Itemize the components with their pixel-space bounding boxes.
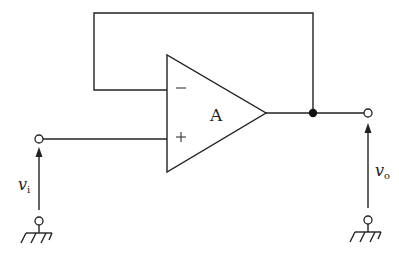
output-ground-icon bbox=[350, 216, 381, 242]
output-junction-dot bbox=[309, 109, 317, 117]
output-voltage-arrow bbox=[365, 123, 372, 208]
plus-sign bbox=[176, 132, 186, 142]
feedback-wire bbox=[94, 13, 313, 113]
output-voltage-label: vo bbox=[375, 161, 390, 181]
voltage-follower-circuit: A vi vo bbox=[0, 0, 399, 268]
input-ground-icon bbox=[21, 217, 52, 243]
amplifier-gain-label: A bbox=[209, 105, 223, 125]
input-voltage-arrow bbox=[36, 147, 43, 210]
input-voltage-label: vi bbox=[18, 175, 30, 195]
output-terminal bbox=[364, 109, 372, 117]
input-terminal bbox=[35, 135, 43, 143]
